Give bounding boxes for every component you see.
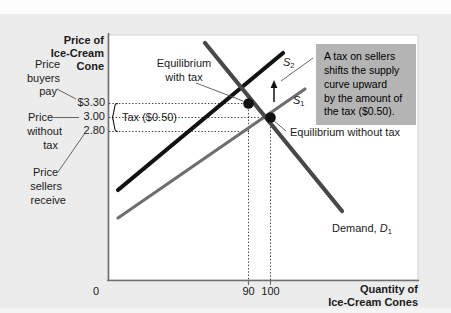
x-axis-title-line2: Ice-Cream Cones	[280, 296, 418, 309]
label-equilibrium-with-tax-line2: with tax	[141, 71, 227, 84]
callout-box: A tax on sellers shifts the supply curve…	[316, 44, 416, 125]
y-tick-label-300: 3.00	[60, 110, 105, 123]
label-price-without-tax-line2: without	[0, 125, 62, 138]
callout-line3: curve upward	[324, 78, 409, 92]
x-axis-title-line1: Quantity of	[300, 283, 418, 296]
label-price-without-tax-line3: tax	[0, 139, 58, 152]
label-equilibrium-without-tax: Equilibrium without tax	[290, 126, 400, 139]
leader-price-sellers-receive	[58, 133, 85, 172]
callout-line1: A tax on sellers	[324, 50, 409, 64]
origin-label: 0	[93, 285, 99, 298]
callout-line5: the tax ($0.50).	[324, 105, 409, 119]
label-price-buyers-pay-line2: buyers	[0, 72, 60, 85]
label-price-sellers-receive-line2: sellers	[0, 180, 62, 193]
point-equilibrium-with-tax	[243, 98, 254, 109]
figure-canvas: Price of Ice-Cream Cone Price buyers pay…	[0, 0, 451, 313]
curve-label-s2: S2	[283, 56, 295, 71]
label-price-buyers-pay-line3: pay	[0, 85, 57, 98]
curve-label-demand-symbol: D	[380, 222, 388, 234]
curve-label-demand: Demand, D1	[332, 222, 392, 237]
label-price-sellers-receive-line1: Price	[0, 166, 58, 179]
y-axis-title-line1: Price of	[18, 34, 104, 47]
label-price-without-tax-line1: Price	[0, 111, 53, 124]
curve-label-demand-text: Demand,	[332, 222, 380, 234]
curve-label-demand-subscript: 1	[388, 227, 392, 236]
curve-label-s1-subscript: 1	[300, 99, 304, 108]
label-price-sellers-receive-line3: receive	[0, 194, 66, 207]
curve-label-s1: S1	[293, 94, 305, 109]
y-tick-label-330: $3.30	[60, 96, 105, 109]
callout-line2: shifts the supply	[324, 64, 409, 78]
callout-line4: by the amount of	[324, 92, 409, 106]
tax-bracket-label: Tax ($0.50)	[122, 111, 177, 124]
y-tick-label-280: 2.80	[60, 124, 105, 137]
curve-label-s2-subscript: 2	[290, 61, 294, 70]
label-price-buyers-pay-line1: Price	[0, 58, 60, 71]
label-equilibrium-with-tax-line1: Equilibrium	[141, 57, 227, 70]
